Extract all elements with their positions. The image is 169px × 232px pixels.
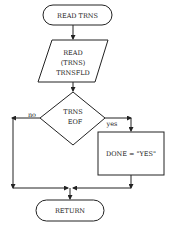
return-terminal: RETURN: [36, 200, 104, 221]
start-terminal: READ TRNS: [43, 5, 112, 25]
return-label: RETURN: [55, 207, 85, 215]
no-label: no: [28, 111, 36, 119]
read-line-2: (TRNS): [61, 59, 86, 67]
read-line-1: READ: [63, 49, 83, 57]
read-input-parallelogram: READ (TRNS) TRNSFLD: [38, 40, 108, 82]
flowchart: READ TRNS READ (TRNS) TRNSFLD TRNS EOF n…: [0, 0, 169, 232]
eof-decision-diamond: TRNS EOF: [40, 92, 105, 145]
yes-label: yes: [106, 120, 118, 128]
assign-done-box: DONE = "YES": [98, 132, 164, 175]
start-label: READ TRNS: [57, 12, 98, 20]
decision-line-1: TRNS: [63, 108, 82, 116]
read-line-3: TRNSFLD: [56, 69, 89, 77]
assign-label: DONE = "YES": [106, 150, 156, 158]
decision-line-2: EOF: [68, 118, 83, 126]
